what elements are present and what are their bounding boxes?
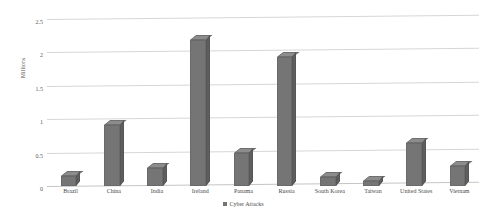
x-axis-tick-label: Ireland: [192, 188, 209, 194]
bar-column[interactable]: [406, 19, 422, 186]
bar-front-face: [190, 40, 206, 186]
bar-front-face: [320, 177, 336, 186]
x-axis-tick-label: Vietnam: [449, 188, 469, 194]
bar-column[interactable]: [450, 19, 466, 186]
bar-front-face: [277, 57, 293, 186]
x-axis-tick-label: Panama: [234, 188, 253, 194]
plot-area: 00.511.522.5: [47, 19, 479, 186]
square-marker-icon: [223, 202, 227, 206]
x-axis-tick-label: United States: [400, 188, 432, 194]
bar-front-face: [104, 125, 120, 186]
bar[interactable]: [450, 166, 466, 186]
bar-side-face: [422, 138, 426, 186]
bar[interactable]: [61, 176, 77, 186]
y-axis-tick-label: 1.5: [36, 86, 44, 92]
bar-column[interactable]: [190, 19, 206, 186]
bar-front-face: [363, 181, 379, 186]
legend-item-label: Cyber Attacks: [229, 201, 263, 207]
bar-column[interactable]: [277, 19, 293, 186]
bar-side-face: [206, 35, 210, 186]
y-axis-tick-label: 2.5: [36, 19, 44, 25]
legend: Cyber Attacks: [0, 201, 487, 207]
bar[interactable]: [190, 40, 206, 186]
bars-layer: [47, 19, 479, 186]
x-axis-tick-label: South Korea: [315, 188, 345, 194]
y-axis-tick-label: 1: [40, 119, 43, 125]
y-axis-tick-label: 0: [40, 186, 43, 192]
bar-side-face: [120, 119, 124, 186]
bar[interactable]: [406, 143, 422, 186]
bar[interactable]: [320, 177, 336, 186]
bar[interactable]: [104, 125, 120, 186]
bar-chart: Millions 00.511.522.5 BrazilChinaIndiaIr…: [0, 0, 487, 222]
bar-front-face: [450, 166, 466, 186]
x-axis-tick-label: Brazil: [63, 188, 78, 194]
x-axis-ticks: BrazilChinaIndiaIrelandPanamaRussiaSouth…: [47, 188, 479, 200]
x-axis-tick-label: Russia: [279, 188, 295, 194]
y-axis-tick-label: 2: [40, 52, 43, 58]
bar[interactable]: [147, 168, 163, 186]
y-axis-tick-label: 0.5: [36, 153, 44, 159]
bar-column[interactable]: [363, 19, 379, 186]
bar[interactable]: [363, 181, 379, 186]
bar-column[interactable]: [104, 19, 120, 186]
bar-side-face: [292, 52, 296, 186]
bar-front-face: [61, 176, 77, 186]
bar[interactable]: [234, 153, 250, 186]
bar-front-face: [406, 143, 422, 186]
bar[interactable]: [277, 57, 293, 186]
bar-side-face: [249, 147, 253, 186]
bar-side-face: [163, 163, 167, 186]
bar-side-face: [76, 171, 80, 186]
bar-front-face: [147, 168, 163, 186]
bar-front-face: [234, 153, 250, 186]
bar-column[interactable]: [147, 19, 163, 186]
bar-column[interactable]: [61, 19, 77, 186]
x-axis-tick-label: India: [151, 188, 163, 194]
x-axis-tick-label: China: [107, 188, 121, 194]
x-axis-tick-label: Taiwan: [364, 188, 382, 194]
y-axis-title-label: Millions: [20, 58, 26, 78]
bar-column[interactable]: [320, 19, 336, 186]
bar-column[interactable]: [234, 19, 250, 186]
bar-side-face: [465, 161, 469, 186]
